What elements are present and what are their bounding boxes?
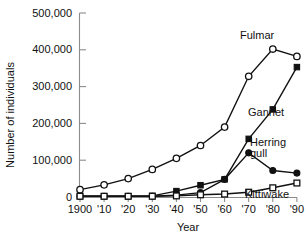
data-point <box>173 155 179 161</box>
data-point <box>221 124 227 130</box>
x-axis-label: Year <box>177 221 200 233</box>
x-tick-label: '40 <box>169 203 183 215</box>
y-axis-label: Number of individuals <box>4 62 16 168</box>
x-tick-label: '70 <box>242 203 256 215</box>
seabird-population-chart: Number of individuals 500,000 400,000 30… <box>0 0 305 237</box>
y-tick-label: 500,000 <box>32 7 72 19</box>
data-point <box>101 182 107 188</box>
series-gannet <box>77 64 299 199</box>
data-point <box>294 180 300 186</box>
y-tick-labels: 500,000 400,000 300,000 200,000 100,000 … <box>32 7 72 203</box>
data-point <box>125 193 131 199</box>
data-point <box>270 168 276 174</box>
data-point <box>294 170 300 176</box>
data-point <box>222 191 228 197</box>
data-point <box>77 193 83 199</box>
x-tick-label: '30 <box>145 203 159 215</box>
data-point <box>198 183 203 188</box>
data-point <box>149 193 155 199</box>
series-annotation-herring-gull: gull <box>250 147 267 159</box>
series-fulmar <box>77 46 300 193</box>
chart-canvas: Number of individuals 500,000 400,000 30… <box>0 0 305 237</box>
x-tick-label: '60 <box>217 203 231 215</box>
y-tick-label: 0 <box>66 191 72 203</box>
x-tick-label: '90 <box>290 203 304 215</box>
x-tick-label: 1900 <box>68 203 92 215</box>
data-point <box>246 73 252 79</box>
x-tick-label: '80 <box>266 203 280 215</box>
x-tick-labels: 1900 '10 '20 '30 '40 '50 '60 '70 '80 '90 <box>68 203 304 215</box>
x-tick-label: '50 <box>193 203 207 215</box>
y-tick-marks <box>80 13 87 197</box>
series-annotation-fulmar: Fulmar <box>240 29 275 41</box>
data-point <box>197 142 203 148</box>
data-point <box>77 186 83 192</box>
series-annotation-kittiwake: Kittiwake <box>245 188 289 200</box>
y-tick-label: 100,000 <box>32 154 72 166</box>
data-point <box>294 64 299 69</box>
data-point <box>222 176 228 182</box>
series-line <box>80 67 297 196</box>
y-tick-label: 300,000 <box>32 80 72 92</box>
y-tick-label: 400,000 <box>32 43 72 55</box>
y-tick-label: 200,000 <box>32 117 72 129</box>
series-annotation-gannet: Gannet <box>248 106 284 118</box>
data-point <box>174 193 180 199</box>
series-layer <box>77 46 300 199</box>
data-point <box>101 193 107 199</box>
x-tick-label: '20 <box>121 203 135 215</box>
data-point <box>125 175 131 181</box>
x-tick-label: '10 <box>97 203 111 215</box>
data-point <box>149 166 155 172</box>
data-point <box>198 192 204 198</box>
data-point <box>270 46 276 52</box>
data-point <box>294 53 300 59</box>
